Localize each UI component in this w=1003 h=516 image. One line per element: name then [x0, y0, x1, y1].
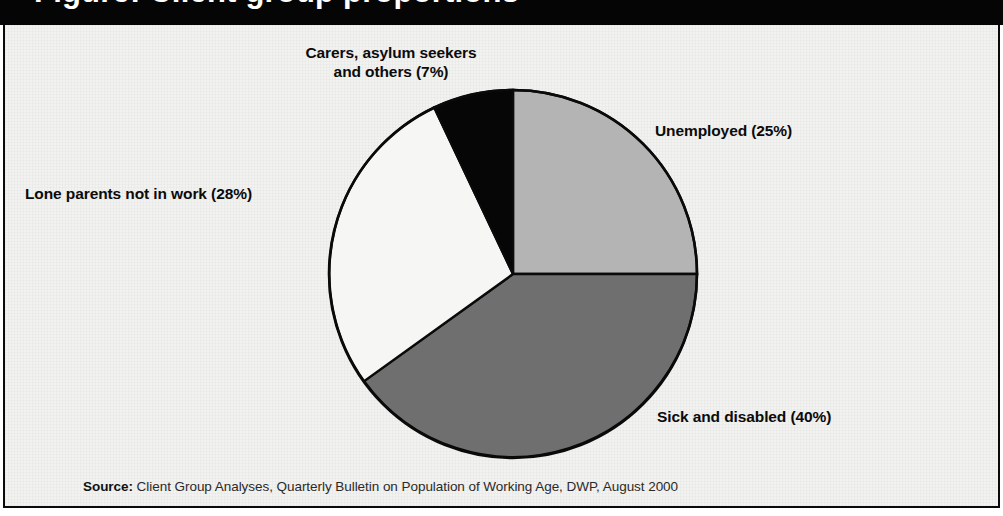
pie-label-lone-parents: Lone parents not in work (28%)	[25, 184, 355, 203]
source-label: Source:	[83, 479, 133, 494]
pie-svg	[327, 88, 699, 460]
bottom-rule	[0, 509, 1003, 516]
pie-slice-unemployed[interactable]	[513, 90, 697, 274]
source-line: Source: Client Group Analyses, Quarterly…	[83, 479, 678, 494]
pie-chart	[327, 88, 699, 460]
pie-label-carers: Carers, asylum seekers and others (7%)	[251, 43, 531, 81]
source-value: Client Group Analyses, Quarterly Bulleti…	[133, 479, 678, 494]
chart-page: Figure: Client group proportions Carers,…	[0, 0, 1003, 516]
title-band: Figure: Client group proportions	[0, 0, 1003, 25]
pie-label-sick-disabled: Sick and disabled (40%)	[657, 407, 957, 426]
page-title: Figure: Client group proportions	[34, 0, 519, 10]
chart-plate: Carers, asylum seekers and others (7%) U…	[3, 25, 1000, 508]
pie-label-unemployed: Unemployed (25%)	[655, 121, 935, 140]
